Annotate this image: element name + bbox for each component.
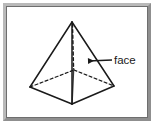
face-leader-arrow bbox=[88, 60, 112, 61]
pyramid-visible-edges bbox=[30, 22, 114, 104]
edge-base-left-to-back bbox=[30, 70, 74, 87]
face-leader-line bbox=[88, 60, 112, 61]
figure-root: face bbox=[0, 0, 157, 126]
edge-base-front-to-right bbox=[72, 86, 114, 104]
pyramid-diagram-canvas: face bbox=[0, 0, 157, 126]
face-label: face bbox=[114, 54, 136, 66]
edge-apex-to-base-left bbox=[30, 22, 72, 87]
edge-apex-to-base-right bbox=[72, 22, 114, 86]
edge-base-left-to-front bbox=[30, 87, 72, 104]
